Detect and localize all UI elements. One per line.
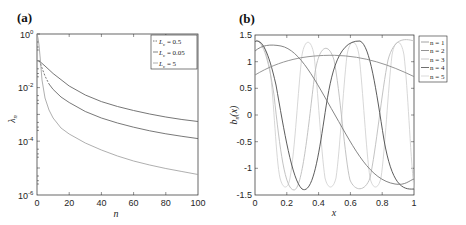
xtick-a-0: 0: [34, 198, 39, 208]
legend-b-item-0: n = 1: [430, 39, 445, 47]
figure: (a) 100 10-2 10-: [0, 0, 466, 225]
legend-b-item-4: n = 5: [430, 73, 445, 81]
xtick-b-0.6: 0.6: [344, 198, 357, 208]
legend-a-item-2: Lc = 5: [158, 60, 177, 69]
xtick-b-0.2: 0.2: [281, 198, 294, 208]
xtick-b-0.8: 0.8: [376, 198, 389, 208]
ylabel-a: λn: [6, 115, 18, 124]
panel-a-label: (a): [17, 10, 32, 25]
axes-a-xticks: 0 20 40 60 80 100: [34, 198, 205, 208]
legend-b-item-3: n = 4: [430, 64, 445, 72]
legend-a-item-1: Lc = 0.05: [158, 49, 185, 58]
xlabel-a: n: [114, 208, 119, 219]
xtick-a-60: 60: [129, 198, 139, 208]
xtick-a-100: 100: [190, 198, 205, 208]
ytick-b-1.5: 1.5: [239, 30, 252, 40]
xlabel-b: x: [331, 207, 337, 218]
xtick-a-40: 40: [96, 198, 106, 208]
ytick-a-1: 10-2: [18, 82, 34, 93]
ytick-b-0.5: 0.5: [239, 83, 252, 93]
panel-b: (b) 1.5 1 0.5 0 -0.5: [228, 11, 447, 218]
xtick-b-0: 0: [252, 198, 257, 208]
ytick-a-0: 100: [20, 29, 34, 40]
legend-a-item-0: Lc = 0.5: [158, 38, 182, 47]
svg-text:λn: λn: [6, 115, 18, 124]
ytick-b-0: 0: [247, 110, 252, 120]
xtick-a-80: 80: [161, 198, 171, 208]
legend-b: n = 1 n = 2 n = 3 n = 4 n = 5: [419, 36, 447, 82]
ylabel-b: bn(x): [228, 105, 240, 125]
xtick-a-20: 20: [64, 198, 74, 208]
ytick-a-2: 10-4: [18, 136, 34, 147]
legend-b-item-2: n = 3: [430, 56, 445, 64]
ytick-b-1: 1: [247, 57, 252, 67]
ytick-b-neg1.5: -1.5: [236, 190, 252, 200]
axes-a-yticks: 100 10-2 10-4 10-6: [18, 29, 34, 201]
ytick-b-neg0.5: -0.5: [236, 137, 252, 147]
xtick-b-0.4: 0.4: [312, 198, 325, 208]
legend-b-item-1: n = 2: [430, 47, 445, 55]
xtick-b-1: 1: [411, 198, 416, 208]
panel-b-label: (b): [239, 11, 255, 26]
legend-a: Lc = 0.5 Lc = 0.05 Lc = 5: [151, 35, 197, 69]
panel-a: (a) 100 10-2 10-: [6, 10, 206, 219]
svg-text:bn(x): bn(x): [228, 105, 240, 125]
ytick-b-neg1: -1: [244, 163, 252, 173]
ytick-a-3: 10-6: [18, 190, 34, 201]
